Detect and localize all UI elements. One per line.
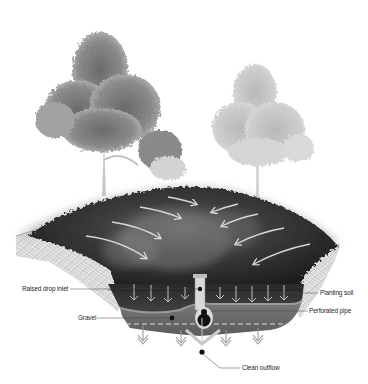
- label-clean-outflow: Clean outflow: [242, 364, 279, 372]
- perforated-pipe: [195, 307, 213, 329]
- leader-clean-outflow: [203, 354, 240, 368]
- label-raised-drop-inlet: Raised drop inlet: [22, 285, 68, 293]
- rain-garden-diagram: Raised drop inlet Gravel Planting soil P…: [0, 0, 368, 384]
- tree-right: [212, 64, 314, 202]
- tree-left: [35, 32, 186, 196]
- raised-drop-inlet: [193, 274, 207, 310]
- label-planting-soil: Planting soil: [320, 289, 353, 297]
- label-gravel: Gravel: [78, 314, 96, 322]
- outflow-pointer-dot: [199, 349, 204, 354]
- gravel-pointer-dot: [170, 316, 175, 321]
- label-perforated-pipe: Perforated pipe: [309, 307, 351, 315]
- diagram-canvas: [0, 0, 368, 384]
